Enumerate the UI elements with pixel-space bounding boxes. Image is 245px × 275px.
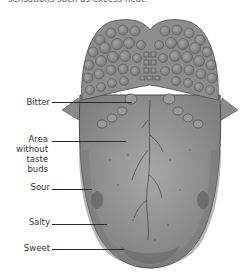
leader-area-without-taste-buds: [52, 141, 126, 142]
leader-sour: [52, 189, 92, 190]
label-bitter: Bitter: [10, 97, 50, 107]
label-area-without-taste-buds: Area without taste buds: [6, 134, 48, 174]
label-sour: Sour: [10, 182, 50, 192]
leader-bitter: [52, 102, 132, 103]
leader-salty: [52, 224, 107, 225]
label-sweet: Sweet: [6, 243, 50, 253]
leader-sweet: [52, 249, 124, 250]
label-salty: Salty: [10, 217, 50, 227]
